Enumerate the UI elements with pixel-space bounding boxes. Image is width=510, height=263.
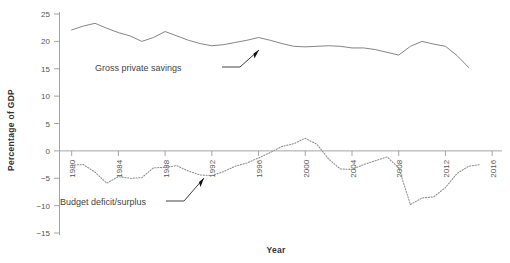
x-axis-ticks [72, 151, 492, 156]
x-axis-title: Year [266, 245, 286, 255]
y-tick-label--5: −5 [41, 174, 51, 183]
y-tick-label--10: −10 [36, 202, 50, 211]
y-tick-label-0: 0 [46, 147, 51, 156]
y-axis-ticks [54, 14, 60, 233]
savings-annotation-leader-line [222, 50, 259, 67]
y-tick-label--15: −15 [36, 229, 50, 238]
series-line-budget-deficit-surplus [72, 138, 481, 204]
y-tick-label-5: 5 [46, 120, 51, 129]
x-tick-label-2008: 2008 [395, 159, 404, 177]
savings-annotation-arrowhead [252, 49, 262, 58]
x-tick-label-1996: 1996 [255, 159, 264, 177]
deficit-annotation-leader-line [166, 178, 204, 201]
x-tick-label-2012: 2012 [442, 159, 451, 177]
y-tick-label-15: 15 [41, 65, 50, 74]
deficit-annotation-arrowhead [197, 177, 206, 187]
x-tick-label-2016: 2016 [489, 159, 498, 177]
annotation-layer: Gross private savingsBudget deficit/surp… [60, 49, 261, 207]
percentage-of-gdp-line-chart: Percentage of GDP Year −15−10−5051015202… [0, 0, 510, 263]
x-tick-label-1980: 1980 [68, 159, 77, 177]
x-tick-label-2000: 2000 [302, 159, 311, 177]
x-axis-tick-labels: 1980198419881992199620002004200820122016 [68, 159, 497, 177]
data-series-layer [72, 23, 481, 204]
x-tick-label-1988: 1988 [162, 159, 171, 177]
y-tick-label-25: 25 [41, 10, 50, 19]
chart-figure: Percentage of GDP Year −15−10−5051015202… [0, 0, 510, 263]
x-tick-label-2004: 2004 [349, 159, 358, 177]
series-line-gross-private-savings [72, 23, 469, 67]
y-axis-title: Percentage of GDP [6, 89, 16, 171]
x-tick-label-1984: 1984 [115, 159, 124, 177]
y-tick-label-20: 20 [41, 37, 50, 46]
y-axis-tick-labels: −15−10−50510152025 [36, 10, 50, 238]
y-tick-label-10: 10 [41, 92, 50, 101]
deficit-annotation-label: Budget deficit/surplus [60, 197, 147, 207]
savings-annotation-label: Gross private savings [95, 63, 182, 73]
